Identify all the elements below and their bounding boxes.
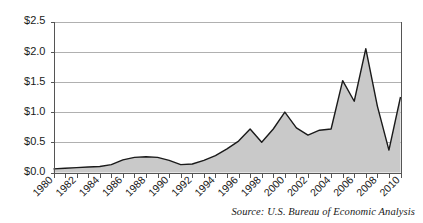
y-tick-label: $2.5	[24, 14, 45, 26]
x-tick-label: 1982	[53, 173, 78, 198]
x-tick-label: 2010	[377, 173, 402, 198]
y-tick-label: $0.5	[24, 135, 45, 147]
x-tick-label: 1990	[146, 173, 171, 198]
x-tick-label: 1998	[238, 173, 263, 198]
y-tick-label: $0.0	[24, 165, 45, 177]
x-tick-label: 2008	[354, 173, 379, 198]
source-note: Source: U.S. Bureau of Economic Analysis	[0, 206, 415, 217]
x-tick-label: 1986	[99, 173, 124, 198]
y-axis-labels: $0.0$0.5$1.0$1.5$2.0$2.5	[24, 14, 45, 177]
x-tick-label: 1984	[76, 173, 101, 198]
series-area-fill	[54, 49, 401, 173]
y-tick-label: $2.0	[24, 45, 45, 57]
y-tick-label: $1.0	[24, 105, 45, 117]
x-tick-label: 1996	[215, 173, 240, 198]
area-chart: $0.0$0.5$1.0$1.5$2.0$2.5 198019821984198…	[0, 0, 423, 223]
y-tick-label: $1.5	[24, 75, 45, 87]
x-tick-label: 1994	[192, 173, 217, 198]
x-tick-label: 2004	[308, 173, 333, 198]
series-group	[54, 49, 401, 173]
x-tick-label: 1992	[169, 173, 194, 198]
x-tick-label: 2002	[284, 173, 309, 198]
x-tick-label: 2000	[261, 173, 286, 198]
x-tick-label: 2006	[331, 173, 356, 198]
chart-figure: $0.0$0.5$1.0$1.5$2.0$2.5 198019821984198…	[0, 0, 423, 223]
x-tick-label: 1988	[122, 173, 147, 198]
